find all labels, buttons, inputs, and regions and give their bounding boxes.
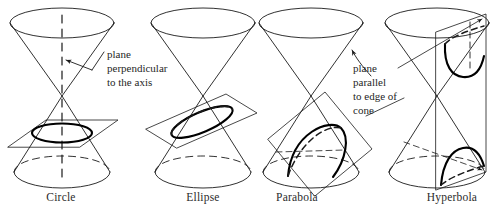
cone-base-front	[389, 172, 485, 188]
annotation-plane-parallel-line-3: to edge of	[353, 90, 397, 102]
cone-upper-side-left	[259, 23, 311, 96]
panel-circle	[8, 8, 118, 188]
annotation-plane-perpendicular-line-2: perpendicular	[107, 62, 168, 74]
cone-upper-side-right	[203, 23, 255, 96]
cone-lower-side-left	[14, 96, 62, 172]
annotation-plane-parallel-line-1: plane	[353, 62, 377, 74]
cross-section-hyperbola-lower-hidden	[441, 166, 484, 185]
cone-lower-side-left	[263, 96, 311, 172]
annotation-text-group: plane perpendicular to the axis plane pa…	[107, 48, 397, 116]
annotation-plane-perpendicular-line-1: plane	[107, 48, 131, 60]
panel-hyperbola	[385, 8, 489, 190]
cone-base-back	[155, 156, 251, 172]
caption-ellipse: Ellipse	[186, 191, 219, 204]
hyperbola-guide-lower	[404, 142, 482, 170]
leader-line-perpendicular-tail	[92, 52, 104, 70]
caption-hyperbola: Hyperbola	[427, 191, 477, 204]
conic-sections-figure: plane perpendicular to the axis plane pa…	[0, 0, 499, 213]
cone-lower-side-right	[437, 96, 485, 172]
annotation-plane-parallel-line-2: parallel	[353, 76, 386, 88]
cutting-plane-hyperbola	[436, 14, 486, 190]
cone-upper-side-left	[10, 23, 62, 96]
panel-ellipse	[146, 8, 257, 188]
cone-top-rim	[259, 8, 363, 38]
cone-base-back	[263, 156, 359, 172]
panel-parabola	[259, 8, 372, 196]
cone-base-front	[155, 172, 251, 188]
cross-section-hyperbola-upper	[445, 44, 484, 77]
cone-upper-side-left	[151, 23, 203, 96]
annotation-plane-perpendicular	[66, 52, 104, 70]
caption-circle: Circle	[46, 191, 75, 203]
cross-section-hyperbola-upper-hidden	[445, 26, 484, 44]
cone-base-front	[263, 172, 359, 188]
cone-top-rim	[151, 8, 255, 38]
caption-parabola: Parabola	[276, 191, 318, 203]
annotation-plane-parallel-line-4: cone	[353, 104, 374, 116]
hyperbola-guide-upper	[398, 19, 482, 68]
cross-section-hyperbola-lower	[441, 148, 484, 185]
cone-lower-side-left	[389, 96, 437, 172]
leader-line-perpendicular	[66, 60, 92, 70]
cone-upper-side-right	[437, 23, 489, 96]
conic-sections-drawing: plane perpendicular to the axis plane pa…	[0, 0, 499, 213]
annotation-plane-perpendicular-line-3: to the axis	[107, 76, 152, 88]
cutting-plane-ellipse	[146, 94, 257, 148]
caption-group: Circle Ellipse Parabola Hyperbola	[46, 191, 477, 204]
cone-upper-side-left	[385, 23, 437, 96]
cone-lower-side-right	[62, 96, 110, 172]
parabola-base-chord	[276, 150, 345, 152]
cone-top-rim	[385, 8, 489, 38]
